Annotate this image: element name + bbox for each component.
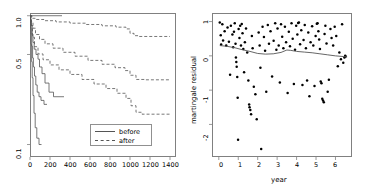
y-tick-label-left-2: 0.1 xyxy=(16,148,23,159)
x-tick-label-right-5: 5 xyxy=(314,162,318,169)
x-tick-label-left-3: 600 xyxy=(84,162,97,169)
x-tick-label-right-1: 1 xyxy=(238,162,242,169)
survival-plot-panel: 1.0 0.5 0.1 0 200 400 600 800 1000 1200 … xyxy=(0,0,183,192)
y-tick-label-right-1: 0 xyxy=(203,58,210,62)
x-tick-label-right-0: 0 xyxy=(219,162,223,169)
y-tick-label-right-0: 1 xyxy=(203,20,210,24)
x-tick-label-right-6: 6 xyxy=(333,162,337,169)
legend-entry-after: after xyxy=(91,136,153,146)
x-tick-label-right-4: 4 xyxy=(295,162,299,169)
legend-label-after: after xyxy=(119,136,134,146)
x-tick-label-right-3: 3 xyxy=(276,162,280,169)
y-tick-label-left-0: 1.0 xyxy=(16,17,23,28)
survival-curve-after-1 xyxy=(30,16,170,37)
x-tick-label-left-0: 0 xyxy=(28,162,32,169)
x-tick-label-left-6: 1200 xyxy=(142,162,159,169)
y-tick-label-right-3: -2 xyxy=(203,134,210,141)
y-tick-label-left-1: 0.5 xyxy=(16,58,23,69)
x-tick-label-left-2: 400 xyxy=(64,162,77,169)
x-tick-label-left-4: 800 xyxy=(104,162,117,169)
residual-plot-panel: 1 0 -1 -2 martingale residual 0 1 2 3 4 … xyxy=(183,0,366,192)
figure-canvas: 1.0 0.5 0.1 0 200 400 600 800 1000 1200 … xyxy=(0,0,366,192)
legend-key-dashed-icon xyxy=(95,140,115,141)
survival-curve-after-2 xyxy=(30,16,170,80)
x-tick-label-left-5: 1000 xyxy=(122,162,139,169)
survival-curve-after-3 xyxy=(30,16,170,114)
x-axis-title: year xyxy=(271,176,287,184)
legend-key-solid-icon xyxy=(95,131,115,132)
y-tick-label-right-2: -1 xyxy=(203,96,210,103)
residual-scatter-svg xyxy=(183,0,366,192)
x-tick-label-left-1: 200 xyxy=(44,162,57,169)
x-tick-label-left-7: 1400 xyxy=(162,162,179,169)
x-tick-label-right-2: 2 xyxy=(257,162,261,169)
y-axis-title: martingale residual xyxy=(190,56,198,124)
scatter-points xyxy=(219,21,347,150)
legend: before after xyxy=(90,124,152,146)
